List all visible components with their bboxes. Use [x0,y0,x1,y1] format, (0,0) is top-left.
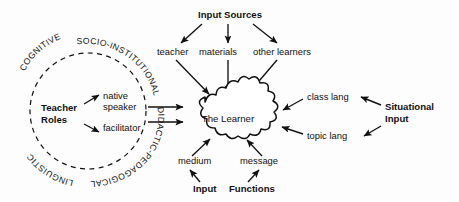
role-native-speaker-line2: speaker [103,101,136,112]
teacher-roles-heading-line1: Teacher [41,102,77,113]
arrow-message-to-learner [247,140,262,156]
role-native-speaker-line1: native [103,90,128,101]
learner-input-diagram: COGNITIVE SOCIO-INSTITUTIONAL DIDACTIC-P… [0,0,459,202]
arrow-inputfunctions-to-message [248,170,259,182]
teacher-roles-heading-line2: Roles [41,114,67,125]
arrow-situational-to-class-lang [361,97,381,105]
arrow-class-lang-to-learner [283,99,303,110]
ring-label-didactic-pedagogical-text: DIDACTIC-PEDAGOGICAL [90,106,166,189]
diagram-canvas: COGNITIVE SOCIO-INSTITUTIONAL DIDACTIC-P… [0,0,459,202]
situational-input-heading-line2: Input [385,113,409,124]
arrow-topic-lang-to-learner [282,127,303,134]
input-sources-heading: Input Sources [198,9,262,20]
ring-label-socio-institutional: SOCIO-INSTITUTIONAL [76,36,162,97]
input-function-medium-label: medium [178,155,212,166]
input-functions-group: medium message Input Functions [178,139,278,194]
input-functions-heading-word1: Input [193,183,217,194]
learner-node: The Learner [199,77,277,139]
role-facilitator-label: facilitator [103,122,141,133]
ring-label-socio-institutional-text: SOCIO-INSTITUTIONAL [76,36,162,97]
arrow-inputsources-to-teacher [181,24,202,43]
arrow-situational-to-topic-lang [364,126,381,136]
situational-input-group: Situational Input class lang topic lang [282,91,434,141]
arrow-teacher-to-learner [176,60,209,94]
input-functions-heading-word2: Functions [229,183,275,194]
ring-label-linguistic: LINGUISTIC [25,152,74,189]
ring-label-didactic-pedagogical: DIDACTIC-PEDAGOGICAL [90,106,166,189]
arrow-teacherroles-to-facilitator [84,124,99,132]
arrow-inputsources-to-other-learners [253,24,277,43]
input-source-teacher-label: teacher [157,46,188,57]
ring-label-cognitive: COGNITIVE [17,31,62,72]
situational-class-lang-label: class lang [307,91,349,102]
arrow-inputfunctions-to-medium [190,170,200,182]
arrow-medium-to-learner [192,139,210,156]
input-function-message-label: message [240,155,278,166]
learner-cloud-shape [199,77,277,139]
input-source-materials-label: materials [199,46,237,57]
situational-topic-lang-label: topic lang [307,130,347,141]
situational-input-heading-line1: Situational [385,101,434,112]
learner-label: The Learner [202,113,255,124]
input-source-other-learners-label: other learners [253,46,311,57]
ring-label-cognitive-text: COGNITIVE [17,31,62,72]
arrow-teacherroles-to-native-speaker [84,95,99,104]
ring-label-linguistic-text: LINGUISTIC [25,152,74,189]
